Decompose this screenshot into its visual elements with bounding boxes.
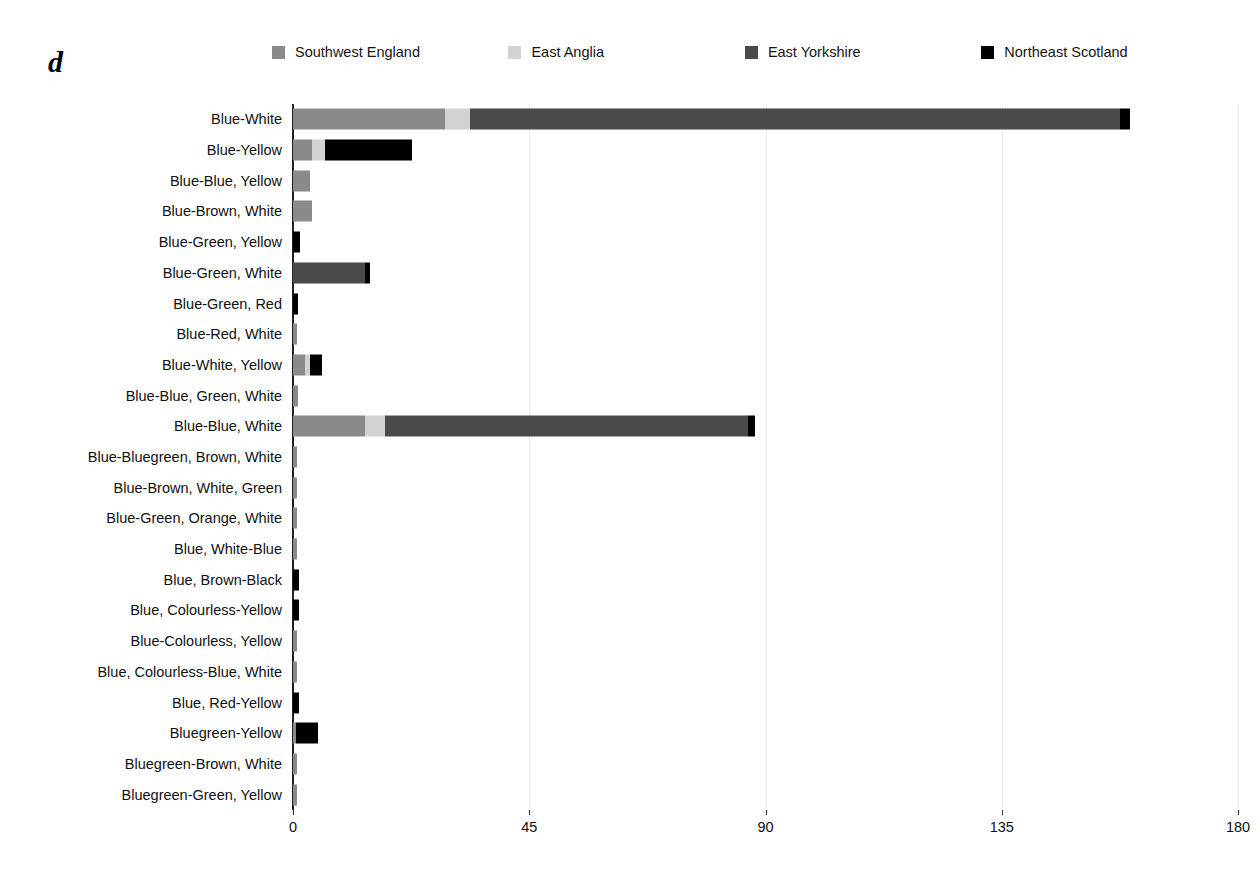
bar-row[interactable]: Blue-Red, White: [293, 319, 1238, 350]
bar-segment[interactable]: [293, 600, 299, 621]
category-label: Blue-Colourless, Yellow: [130, 634, 282, 649]
legend-item[interactable]: Southwest England: [272, 40, 508, 64]
bar-row[interactable]: Bluegreen-Green, Yellow: [293, 779, 1238, 810]
stacked-bar[interactable]: [293, 140, 412, 161]
bar-row[interactable]: Blue, Brown-Black: [293, 564, 1238, 595]
legend-item[interactable]: Northeast Scotland: [981, 40, 1172, 64]
bar-segment[interactable]: [293, 753, 297, 774]
bar-row[interactable]: Bluegreen-Yellow: [293, 718, 1238, 749]
bar-segment[interactable]: [293, 631, 297, 652]
bar-segment[interactable]: [310, 354, 322, 375]
bar-row[interactable]: Blue, Red-Yellow: [293, 687, 1238, 718]
stacked-bar[interactable]: [293, 201, 312, 222]
bar-segment[interactable]: [296, 723, 318, 744]
bar-row[interactable]: Blue-Bluegreen, Brown, White: [293, 442, 1238, 473]
panel-letter: d: [48, 45, 63, 79]
stacked-bar[interactable]: [293, 692, 299, 713]
bar-segment[interactable]: [470, 109, 1120, 130]
bar-segment[interactable]: [312, 140, 325, 161]
category-label: Bluegreen-Brown, White: [125, 757, 282, 772]
legend-item[interactable]: East Yorkshire: [745, 40, 981, 64]
x-tick-label: 90: [757, 820, 773, 835]
bar-segment[interactable]: [293, 569, 299, 590]
stacked-bar[interactable]: [293, 508, 297, 529]
bar-row[interactable]: Blue-Colourless, Yellow: [293, 626, 1238, 657]
stacked-bar[interactable]: [293, 753, 297, 774]
category-label: Blue, White-Blue: [174, 542, 282, 557]
bar-segment[interactable]: [293, 170, 310, 191]
bar-row[interactable]: Blue, Colourless-Blue, White: [293, 657, 1238, 688]
chart-legend: Southwest EnglandEast AngliaEast Yorkshi…: [272, 40, 1172, 64]
bar-row[interactable]: Blue-White: [293, 104, 1238, 135]
bar-row[interactable]: Blue-Brown, White: [293, 196, 1238, 227]
bar-segment[interactable]: [293, 385, 298, 406]
stacked-bar[interactable]: [293, 723, 318, 744]
bar-segment[interactable]: [293, 140, 312, 161]
stacked-bar[interactable]: [293, 385, 298, 406]
stacked-bar[interactable]: [293, 477, 297, 498]
bar-row[interactable]: Blue-Blue, White: [293, 411, 1238, 442]
stacked-bar[interactable]: [293, 354, 322, 375]
bar-segment[interactable]: [445, 109, 470, 130]
bar-segment[interactable]: [293, 416, 365, 437]
stacked-bar[interactable]: [293, 324, 297, 345]
stacked-bar[interactable]: [293, 293, 298, 314]
bar-row[interactable]: Blue-Green, Orange, White: [293, 503, 1238, 534]
stacked-bar[interactable]: [293, 631, 297, 652]
category-label: Blue, Brown-Black: [164, 573, 282, 588]
stacked-bar[interactable]: [293, 446, 297, 467]
stacked-bar[interactable]: [293, 569, 299, 590]
stacked-bar[interactable]: [293, 600, 299, 621]
bar-segment[interactable]: [293, 324, 297, 345]
bar-segment[interactable]: [365, 262, 370, 283]
bar-segment[interactable]: [293, 477, 297, 498]
legend-swatch-icon: [272, 46, 285, 59]
category-label: Bluegreen-Green, Yellow: [122, 787, 282, 802]
bar-segment[interactable]: [293, 201, 312, 222]
bar-segment[interactable]: [293, 508, 297, 529]
bar-segment[interactable]: [293, 784, 297, 805]
bar-segment[interactable]: [293, 293, 298, 314]
stacked-bar[interactable]: [293, 232, 300, 253]
bar-segment[interactable]: [293, 232, 300, 253]
x-tick-mark: [1002, 810, 1003, 815]
category-label: Blue-Blue, White: [174, 419, 282, 434]
bar-segment[interactable]: [293, 446, 297, 467]
bar-row[interactable]: Blue-White, Yellow: [293, 350, 1238, 381]
x-axis: 04590135180: [293, 810, 1238, 850]
bar-segment[interactable]: [293, 539, 297, 560]
bar-segment[interactable]: [365, 416, 385, 437]
bar-row[interactable]: Blue-Brown, White, Green: [293, 472, 1238, 503]
bar-row[interactable]: Blue-Green, Red: [293, 288, 1238, 319]
stacked-bar[interactable]: [293, 539, 297, 560]
gridline: [1238, 104, 1239, 810]
bar-segment[interactable]: [1120, 109, 1130, 130]
legend-item[interactable]: East Anglia: [508, 40, 744, 64]
bar-row[interactable]: Blue-Blue, Yellow: [293, 165, 1238, 196]
bar-segment[interactable]: [293, 109, 445, 130]
bar-segment[interactable]: [385, 416, 748, 437]
category-label: Bluegreen-Yellow: [170, 726, 282, 741]
bar-row[interactable]: Blue-Blue, Green, White: [293, 380, 1238, 411]
stacked-bar[interactable]: [293, 661, 297, 682]
category-label: Blue, Colourless-Yellow: [130, 603, 282, 618]
x-tick-mark: [766, 810, 767, 815]
bar-segment[interactable]: [293, 692, 299, 713]
bar-segment[interactable]: [293, 661, 297, 682]
bar-row[interactable]: Blue-Green, White: [293, 257, 1238, 288]
bar-row[interactable]: Blue, White-Blue: [293, 534, 1238, 565]
bar-row[interactable]: Blue, Colourless-Yellow: [293, 595, 1238, 626]
stacked-bar[interactable]: [293, 416, 755, 437]
bar-row[interactable]: Bluegreen-Brown, White: [293, 749, 1238, 780]
bar-segment[interactable]: [293, 262, 365, 283]
stacked-bar[interactable]: [293, 109, 1130, 130]
legend-label: East Yorkshire: [768, 45, 861, 60]
stacked-bar[interactable]: [293, 784, 297, 805]
bar-segment[interactable]: [293, 354, 305, 375]
bar-row[interactable]: Blue-Yellow: [293, 135, 1238, 166]
bar-row[interactable]: Blue-Green, Yellow: [293, 227, 1238, 258]
stacked-bar[interactable]: [293, 262, 370, 283]
bar-segment[interactable]: [325, 140, 412, 161]
bar-segment[interactable]: [748, 416, 755, 437]
stacked-bar[interactable]: [293, 170, 310, 191]
